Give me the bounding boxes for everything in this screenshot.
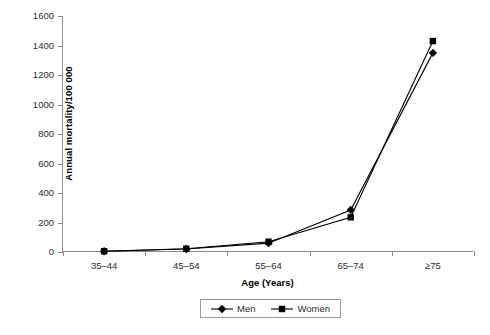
- series-men: [100, 49, 437, 256]
- series-line: [104, 41, 433, 251]
- series-layer: [63, 16, 474, 252]
- y-tick-label: 0: [49, 246, 54, 257]
- chart-legend: MenWomen: [200, 299, 341, 318]
- data-point-marker: [183, 246, 189, 252]
- x-category-label: 35–44: [91, 260, 117, 271]
- legend-marker-diamond-icon: [211, 304, 233, 314]
- y-tick-label: 200: [38, 217, 54, 228]
- legend-label: Women: [297, 303, 330, 314]
- y-tick-label: 400: [38, 187, 54, 198]
- series-line: [104, 53, 433, 251]
- y-tick-label: 600: [38, 158, 54, 169]
- x-tick: [474, 251, 475, 256]
- data-point-marker: [348, 214, 354, 220]
- legend-label: Men: [237, 303, 255, 314]
- y-tick-label: 800: [38, 128, 54, 139]
- plot-area: 02004006008001000120014001600 35–4445–54…: [62, 16, 473, 252]
- y-tick-label: 1000: [33, 99, 54, 110]
- x-category-label: 45–54: [173, 260, 199, 271]
- x-category-label: ≥75: [425, 260, 441, 271]
- x-category-label: 55–64: [255, 260, 281, 271]
- series-women: [101, 38, 436, 255]
- data-point-marker: [429, 49, 437, 57]
- legend-marker-square-icon: [271, 304, 293, 314]
- data-point-marker: [101, 248, 107, 254]
- legend-entry-women[interactable]: Women: [271, 303, 330, 314]
- y-tick-label: 1200: [33, 69, 54, 80]
- mortality-by-age-chart: Annual mortality/100 000 020040060080010…: [0, 0, 490, 335]
- legend-entry-men[interactable]: Men: [211, 303, 255, 314]
- y-tick-label: 1600: [33, 10, 54, 21]
- x-axis-title: Age (Years): [62, 277, 473, 288]
- y-tick-label: 1400: [33, 40, 54, 51]
- data-point-marker: [430, 38, 436, 44]
- x-category-label: 65–74: [337, 260, 363, 271]
- data-point-marker: [265, 238, 271, 244]
